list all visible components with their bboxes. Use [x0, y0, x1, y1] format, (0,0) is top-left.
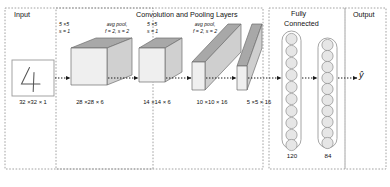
volume-2-dimension-label: 14 ×14 × 6: [129, 99, 185, 106]
hyperparam-2-line2: f = 2, s = 2: [94, 29, 140, 35]
volume-4-dimension-label: 5 ×5 × 16: [233, 99, 285, 106]
section-title-fully-connected-line1: Fully: [291, 10, 306, 18]
hyperparam-2-line1: avg pool,: [94, 22, 140, 28]
section-title-conv: Convolution and Pooling Layers: [136, 11, 238, 19]
hyperparam-3-line2: s = 1: [147, 29, 177, 35]
group-frame-output: [345, 8, 386, 169]
hyperparam-3-line1: 5 ×5: [147, 22, 177, 28]
section-title-output: Output: [353, 11, 375, 19]
section-title-input: Input: [14, 11, 30, 19]
fc-layer-1-label: 120: [278, 152, 306, 159]
volume-1-dimension-label: 28 ×28 × 6: [62, 99, 118, 106]
conv-volume-2: [139, 38, 182, 82]
section-title-fully-connected-line2: Connected: [284, 20, 319, 28]
hyperparam-4-line1: avg pool,: [182, 22, 228, 28]
output-prediction-symbol: ŷ: [359, 70, 364, 80]
hyperparam-4-line2: f = 2, s = 2: [182, 29, 228, 35]
fc-layer-2-label: 84: [314, 152, 342, 159]
input-dimension-label: 32 ×32 × 1: [8, 99, 58, 106]
hyperparam-1-line1: 5 ×5: [59, 22, 89, 28]
conv-volume-1: [71, 38, 132, 85]
hyperparam-1-line2: s = 1: [59, 29, 89, 35]
